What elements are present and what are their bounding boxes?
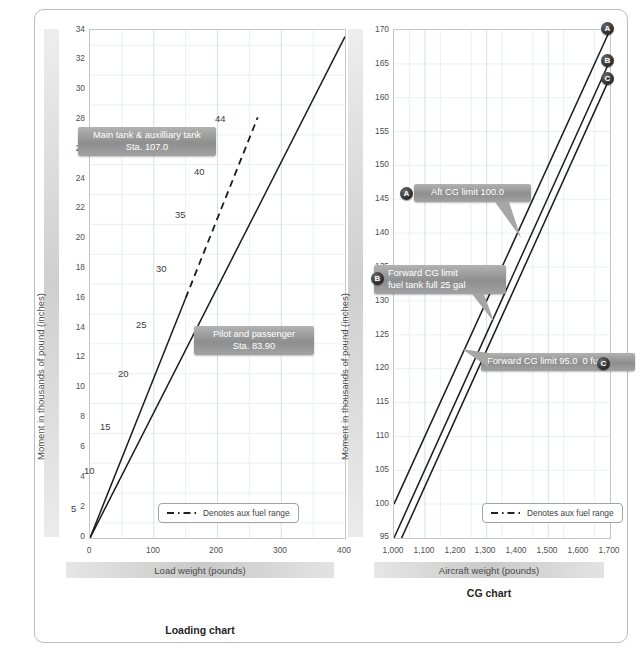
cg-chart-xtick: 1,300 [471, 545, 499, 555]
cg-chart-legend: Denotes aux fuel range [482, 503, 623, 523]
cg-chart-y-axis-band [348, 29, 363, 537]
curve-label-10: 10 [84, 465, 94, 476]
loading-chart-xtick: 400 [334, 545, 354, 555]
cg-chart-ytick: 130 [363, 295, 389, 305]
cg-chart-ytick: 115 [363, 396, 389, 406]
cg-chart-title: CG chart [374, 587, 604, 599]
cg-chart-xtick: 1,100 [410, 545, 438, 555]
loading-chart-xtick: 300 [270, 545, 290, 555]
cg-chart-ytick: 145 [363, 193, 389, 203]
loading-chart-ytick: 18 [63, 262, 85, 272]
cg-chart-y-axis-title: Moment in thousands of pound (inches) [339, 293, 350, 460]
cg-chart-ytick: 150 [363, 159, 389, 169]
dashed-line-key [491, 508, 521, 518]
cg-chart-ytick: 170 [363, 24, 389, 34]
cg-chart-x-axis-band: Aircraft weight (pounds) [374, 562, 604, 578]
loading-chart-svg [90, 30, 345, 538]
cg-chart-xtick: 1,400 [502, 545, 530, 555]
cg-chart-ytick: 105 [363, 464, 389, 474]
cg-chart-ytick: 155 [363, 126, 389, 136]
loading-chart-xtick: 200 [206, 545, 226, 555]
loading-chart-ytick: 12 [63, 351, 85, 361]
loading-chart-ytick: 22 [63, 202, 85, 212]
figure-page: Moment in thousands of pound (inches) [0, 0, 644, 658]
cg-chart-xtick: 1,600 [564, 545, 592, 555]
marker-badge-c: C [597, 357, 610, 370]
curve-label-15: 15 [100, 421, 110, 432]
endpoint-badge-c: C [601, 72, 614, 85]
curve-label-44: 44 [215, 113, 225, 124]
endpoint-badge-a: A [601, 22, 614, 35]
cg-chart-xtick: 1,000 [379, 545, 407, 555]
curve-label-40: 40 [194, 166, 204, 177]
loading-chart-ytick: 4 [63, 471, 85, 481]
callout-main-tank: Main tank & auxilliary tank Sta. 107.0 [78, 127, 216, 156]
loading-chart-ytick: 34 [63, 24, 85, 34]
loading-chart-x-axis-title: Load weight (pounds) [66, 565, 334, 576]
loading-chart-ytick: 0 [63, 531, 85, 541]
loading-chart-legend: Denotes aux fuel range [158, 503, 299, 523]
loading-chart-legend-label: Denotes aux fuel range [203, 508, 290, 518]
endpoint-badge-b: B [601, 54, 614, 67]
loading-chart-ytick: 30 [63, 83, 85, 93]
curve-label-20: 20 [118, 368, 128, 379]
callout-aft-cg-limit: Aft CG limit 100.0 [414, 184, 531, 202]
cg-chart-ytick: 140 [363, 227, 389, 237]
callout-forward-cg-full-fuel: Forward CG limit fuel tank full 25 gal [374, 265, 506, 294]
cg-chart-xtick: 1,200 [441, 545, 469, 555]
loading-chart-ytick: 8 [63, 411, 85, 421]
loading-chart-ytick: 16 [63, 292, 85, 302]
cg-chart-ytick: 165 [363, 58, 389, 68]
loading-chart-ytick: 20 [63, 232, 85, 242]
loading-chart-ytick: 14 [63, 322, 85, 332]
cg-chart-ytick: 160 [363, 92, 389, 102]
dashed-line-key [167, 508, 197, 518]
curve-label-5: 5 [71, 503, 76, 514]
callout-forward-cg-zero-fuel: Forward CG limit 95.0 0 fuel [481, 353, 635, 371]
cg-chart-ytick: 110 [363, 430, 389, 440]
loading-chart-ytick: 24 [63, 173, 85, 183]
callout-pilot-passenger: Pilot and passenger Sta. 83.90 [194, 326, 314, 355]
cg-chart-ytick: 95 [363, 531, 389, 541]
marker-badge-a: A [400, 187, 413, 200]
loading-chart-x-axis-band: Load weight (pounds) [66, 562, 334, 578]
loading-chart-xtick: 100 [143, 545, 163, 555]
loading-chart-title: Loading chart [66, 624, 334, 636]
loading-chart-y-axis-title: Moment in thousands of pound (inches) [35, 293, 46, 460]
loading-chart-y-axis-band [44, 29, 59, 537]
curve-label-35: 35 [175, 209, 185, 220]
cg-chart-xtick: 1,500 [533, 545, 561, 555]
curve-label-30: 30 [156, 263, 166, 274]
cg-chart-legend-label: Denotes aux fuel range [527, 508, 614, 518]
loading-chart-ytick: 28 [63, 113, 85, 123]
loading-chart-xtick: 0 [79, 545, 99, 555]
cg-chart-xtick: 1,700 [595, 545, 623, 555]
cg-chart-x-axis-title: Aircraft weight (pounds) [374, 565, 604, 576]
loading-chart-ytick: 6 [63, 441, 85, 451]
cg-chart-ytick: 125 [363, 329, 389, 339]
marker-badge-b: B [371, 272, 384, 285]
cg-chart-ytick: 100 [363, 498, 389, 508]
loading-chart-ytick: 32 [63, 53, 85, 63]
loading-chart-ytick: 10 [63, 381, 85, 391]
curve-label-25: 25 [136, 319, 146, 330]
cg-chart-ytick: 120 [363, 362, 389, 372]
loading-chart-plot [89, 29, 346, 539]
